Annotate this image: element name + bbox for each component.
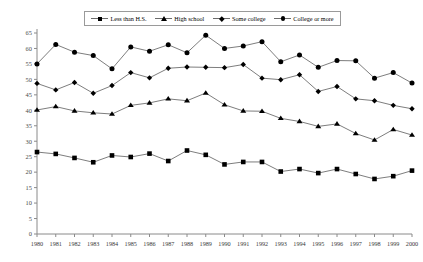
line-chart-plot: 05101520253035404550556065 1980198119821… bbox=[0, 0, 423, 262]
data-point bbox=[91, 91, 96, 96]
data-point bbox=[184, 64, 189, 69]
data-point bbox=[166, 159, 171, 164]
chart-root: Less than H.S. High school Some college … bbox=[0, 0, 423, 262]
data-point bbox=[222, 46, 227, 51]
data-point bbox=[110, 153, 115, 158]
data-point bbox=[128, 155, 133, 160]
data-point bbox=[391, 103, 396, 108]
data-point bbox=[53, 104, 59, 109]
x-tick-label: 1995 bbox=[312, 240, 324, 247]
x-tick-label: 1990 bbox=[218, 240, 230, 247]
x-tick-label: 1996 bbox=[331, 240, 343, 247]
y-tick-label: 25 bbox=[26, 153, 32, 160]
x-tick-label: 1983 bbox=[87, 240, 99, 247]
data-point bbox=[316, 171, 321, 176]
data-point bbox=[147, 49, 152, 54]
data-point bbox=[410, 168, 415, 173]
data-point bbox=[335, 167, 340, 172]
data-point bbox=[222, 162, 227, 167]
x-tick-label: 1997 bbox=[350, 240, 362, 247]
data-point bbox=[410, 81, 415, 86]
y-tick-label: 50 bbox=[26, 76, 32, 83]
data-point bbox=[335, 58, 340, 63]
data-point bbox=[260, 39, 265, 44]
x-tick-label: 1993 bbox=[275, 240, 287, 247]
y-tick-label: 45 bbox=[26, 91, 32, 98]
data-point bbox=[203, 65, 208, 70]
y-tick-label: 20 bbox=[26, 168, 32, 175]
data-point bbox=[353, 58, 358, 63]
data-point bbox=[241, 43, 246, 48]
x-tick-label: 1994 bbox=[293, 240, 305, 247]
data-point bbox=[34, 81, 39, 86]
data-point bbox=[372, 76, 377, 81]
data-point bbox=[203, 153, 208, 158]
y-tick-label: 10 bbox=[26, 199, 32, 206]
data-point bbox=[166, 66, 171, 71]
y-tick-label: 65 bbox=[26, 29, 32, 36]
data-point bbox=[297, 167, 302, 172]
data-point bbox=[53, 87, 58, 92]
data-point bbox=[53, 42, 58, 47]
data-point bbox=[203, 33, 208, 38]
data-point bbox=[278, 59, 283, 64]
data-point bbox=[278, 169, 283, 174]
data-point bbox=[72, 50, 77, 55]
data-point bbox=[91, 160, 96, 165]
data-point bbox=[260, 160, 265, 165]
data-point bbox=[109, 83, 114, 88]
y-tick-label: 0 bbox=[29, 230, 32, 237]
y-tick-label: 35 bbox=[26, 122, 32, 129]
data-point bbox=[185, 148, 190, 153]
x-tick-label: 1992 bbox=[256, 240, 268, 247]
data-point bbox=[165, 96, 171, 101]
data-point bbox=[128, 70, 133, 75]
series-high-school bbox=[34, 90, 415, 142]
x-tick-label: 1985 bbox=[125, 240, 137, 247]
data-point bbox=[72, 80, 77, 85]
y-tick-label: 5 bbox=[29, 215, 32, 222]
x-tick-label: 1988 bbox=[181, 240, 193, 247]
data-point bbox=[222, 65, 227, 70]
data-point bbox=[334, 84, 339, 89]
series-college-or-more bbox=[35, 33, 415, 86]
y-tick-label: 15 bbox=[26, 184, 32, 191]
x-tick-label: 1987 bbox=[162, 240, 174, 247]
data-point bbox=[391, 70, 396, 75]
data-point bbox=[35, 150, 40, 155]
series-less-than-h-s- bbox=[35, 148, 415, 181]
y-axis: 05101520253035404550556065 bbox=[26, 29, 37, 237]
data-point bbox=[35, 61, 40, 66]
data-point bbox=[372, 177, 377, 182]
data-point bbox=[409, 106, 414, 111]
y-tick-label: 40 bbox=[26, 107, 32, 114]
data-point bbox=[390, 127, 396, 132]
data-point bbox=[391, 174, 396, 179]
y-tick-label: 30 bbox=[26, 138, 32, 145]
data-point bbox=[259, 108, 265, 113]
data-point bbox=[297, 52, 302, 57]
x-tick-label: 1999 bbox=[387, 240, 399, 247]
data-point bbox=[353, 131, 359, 136]
x-tick-label: 1991 bbox=[237, 240, 249, 247]
data-point bbox=[241, 160, 246, 165]
data-point bbox=[316, 65, 321, 70]
data-point bbox=[278, 77, 283, 82]
data-point bbox=[110, 66, 115, 71]
x-tick-label: 1981 bbox=[50, 240, 62, 247]
data-point bbox=[147, 75, 152, 80]
data-point bbox=[203, 90, 209, 95]
x-tick-label: 1982 bbox=[68, 240, 80, 247]
data-point bbox=[372, 98, 377, 103]
x-tick-label: 1989 bbox=[200, 240, 212, 247]
y-tick-label: 60 bbox=[26, 45, 32, 52]
data-point bbox=[222, 102, 228, 107]
x-tick-label: 1986 bbox=[143, 240, 155, 247]
data-series-group bbox=[34, 33, 415, 182]
x-tick-label: 2000 bbox=[406, 240, 418, 247]
x-tick-label: 1984 bbox=[106, 240, 118, 247]
data-point bbox=[53, 152, 58, 157]
x-tick-label: 1998 bbox=[368, 240, 380, 247]
data-point bbox=[353, 172, 358, 177]
x-axis: 1980198119821983198419851986198719881989… bbox=[31, 234, 418, 247]
